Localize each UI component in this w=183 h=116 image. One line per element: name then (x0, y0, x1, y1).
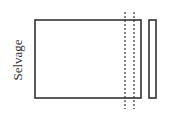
selvage-label: Selvage (10, 39, 26, 80)
fabric-main-panel (35, 20, 141, 98)
fabric-cut-strip (149, 20, 156, 98)
diagram-canvas: Selvage (0, 0, 183, 116)
diagram-svg (0, 0, 183, 116)
